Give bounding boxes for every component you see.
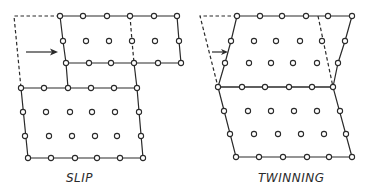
twin-original-right (318, 16, 333, 87)
slip-atom-icon (178, 60, 183, 65)
slip-atom-icon (104, 13, 109, 18)
twin-atom-icon (349, 13, 354, 18)
slip-atom-icon (152, 38, 157, 43)
twin-atom-icon (245, 108, 250, 113)
twin-atom-icon (330, 84, 335, 89)
twin-atom-icon (290, 60, 295, 65)
slip-atom-icon (136, 109, 141, 114)
twin-atom-icon (251, 38, 256, 43)
twin-atom-icon (279, 13, 284, 18)
twin-atom-icon (215, 84, 220, 89)
twinning-label: TWINNING (258, 171, 325, 185)
slip-atom-icon (174, 13, 179, 18)
slip-atom-icon (63, 60, 68, 65)
slip-atom-icon (114, 133, 119, 138)
slip-atom-icon (43, 109, 48, 114)
slip-label: SLIP (66, 171, 93, 185)
twin-atom-icon (286, 84, 291, 89)
twin-atom-icon (262, 84, 267, 89)
slip-atom-icon (20, 109, 25, 114)
twin-atom-icon (251, 131, 256, 136)
slip-atom-icon (18, 85, 23, 90)
slip-atom-icon (22, 133, 27, 138)
slip-atom-icon (80, 13, 85, 18)
twin-atom-icon (349, 154, 354, 159)
twin-atom-icon (234, 13, 239, 18)
twin-atom-icon (246, 60, 251, 65)
slip-atom-icon (106, 38, 111, 43)
twin-atom-icon (342, 38, 347, 43)
twin-atom-icon (314, 108, 319, 113)
twin-atom-icon (319, 38, 324, 43)
slip-upper-block-left (60, 16, 68, 88)
slip-atom-icon (65, 85, 70, 90)
twin-atom-icon (321, 131, 326, 136)
twin-atom-icon (337, 108, 342, 113)
twin-atom-icon (233, 154, 238, 159)
slip-atom-icon (140, 155, 145, 160)
slip-atom-icon (86, 60, 91, 65)
twin-atom-icon (325, 13, 330, 18)
twin-atom-icon (304, 154, 309, 159)
twin-atom-icon (221, 108, 226, 113)
slip-atom-icon (57, 13, 62, 18)
twin-atom-icon (228, 38, 233, 43)
twin-atom-icon (275, 131, 280, 136)
twin-lower-block (218, 87, 352, 157)
slip-atom-icon (108, 60, 113, 65)
twin-atom-icon (326, 154, 331, 159)
slip-atom-icon (127, 13, 132, 18)
slip-atom-icon (88, 85, 93, 90)
twin-atom-icon (257, 13, 262, 18)
slip-atom-icon (176, 38, 181, 43)
twin-atom-icon (268, 108, 273, 113)
slip-step-edge (134, 63, 137, 88)
slip-panel: SLIP (14, 13, 184, 185)
twin-atom-icon (256, 154, 261, 159)
deformation-diagram: SLIP TWINNING (0, 0, 370, 189)
slip-atom-icon (25, 155, 30, 160)
slip-atom-icon (69, 133, 74, 138)
slip-atom-icon (111, 85, 116, 90)
slip-atom-icon (117, 155, 122, 160)
slip-atom-icon (94, 155, 99, 160)
twin-atom-icon (298, 131, 303, 136)
slip-atom-icon (151, 13, 156, 18)
slip-atom-icon (48, 155, 53, 160)
slip-atom-icon (131, 60, 136, 65)
slip-atom-icon (83, 38, 88, 43)
slip-atom-icon (89, 109, 94, 114)
twin-atom-icon (268, 60, 273, 65)
twin-upper-right (333, 16, 352, 87)
slip-atom-icon (46, 133, 51, 138)
twin-atom-icon (335, 60, 340, 65)
slip-atom-icon (67, 109, 72, 114)
twin-atom-icon (222, 60, 227, 65)
slip-atom-icon (41, 85, 46, 90)
twin-atom-icon (303, 13, 308, 18)
slip-atom-icon (92, 133, 97, 138)
twin-atom-icon (291, 108, 296, 113)
twin-atom-icon (309, 84, 314, 89)
slip-lower-block (21, 88, 143, 158)
twinning-panel: TWINNING (200, 13, 355, 185)
twin-atom-icon (343, 131, 348, 136)
twin-atom-icon (297, 38, 302, 43)
slip-atom-icon (60, 38, 65, 43)
slip-atoms (18, 13, 183, 160)
twin-atom-icon (273, 38, 278, 43)
slip-atom-icon (134, 85, 139, 90)
slip-atom-icon (112, 109, 117, 114)
slip-atom-icon (138, 133, 143, 138)
twin-atom-icon (227, 131, 232, 136)
twin-atom-icon (314, 60, 319, 65)
slip-atom-icon (72, 155, 77, 160)
twin-atom-icon (280, 154, 285, 159)
slip-atom-icon (129, 38, 134, 43)
slip-atom-icon (155, 60, 160, 65)
twin-atom-icon (239, 84, 244, 89)
